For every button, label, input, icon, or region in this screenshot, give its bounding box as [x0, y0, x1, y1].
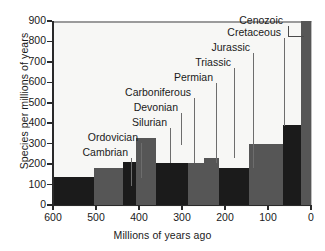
bar-permian	[188, 163, 204, 205]
bar-ordovician	[94, 168, 123, 205]
annotation-triassic: Triassic	[0, 56, 231, 68]
annotation-jurassic: Jurassic	[0, 41, 250, 53]
annotation-silurian: Silurian	[0, 116, 167, 128]
bar-cretaceous	[249, 144, 283, 205]
annotation-carboniferous: Carboniferous	[0, 86, 191, 98]
bar-triassic	[204, 158, 219, 205]
x-tick-label: 300	[162, 211, 202, 223]
annotation-ordovician: Ordovician	[0, 131, 138, 143]
y-axis-line	[52, 21, 54, 205]
x-axis-line	[52, 205, 311, 207]
y-tick-label: 200	[6, 157, 46, 169]
bar-jurassic	[219, 168, 249, 205]
leader-line-cambrian	[131, 158, 132, 186]
bar-tertiary	[283, 125, 301, 205]
x-tick-label: 500	[76, 211, 116, 223]
annotation-cretaceous: Cretaceous	[0, 26, 281, 38]
annotation-cenozoic: Cenozoic	[0, 14, 283, 26]
leader-line-carboniferous	[194, 98, 195, 163]
leader-line-ordovician	[141, 143, 142, 178]
x-tick-label: 200	[205, 211, 245, 223]
leader-line-devonian	[181, 113, 182, 145]
x-tick-label: 600	[33, 211, 73, 223]
bar-silurian	[123, 162, 136, 205]
leader-line-triassic	[234, 68, 235, 158]
bar-devonian	[136, 138, 157, 205]
bar-cambrian	[53, 177, 94, 205]
y-tick-label: 100	[6, 178, 46, 190]
leader-line-jurassic	[253, 53, 254, 168]
cenozoic-bracket-arm-icon	[295, 36, 304, 37]
annotation-permian: Permian	[0, 71, 213, 83]
x-tick-label: 0	[291, 211, 325, 223]
leader-line-silurian	[170, 128, 171, 163]
x-axis-title: Millions of years ago	[0, 229, 325, 241]
bar-cenozoic	[301, 21, 311, 205]
bar-carboniferous	[156, 163, 188, 205]
y-tick-label: 0	[6, 198, 46, 210]
x-tick-label: 400	[119, 211, 159, 223]
bar-chart-figure: Species per millions of years Millions o…	[0, 0, 325, 251]
leader-line-cretaceous	[284, 38, 285, 126]
leader-line-permian	[216, 83, 217, 163]
x-tick-label: 100	[248, 211, 288, 223]
annotation-devonian: Devonian	[0, 101, 178, 113]
annotation-cambrian: Cambrian	[0, 146, 128, 158]
